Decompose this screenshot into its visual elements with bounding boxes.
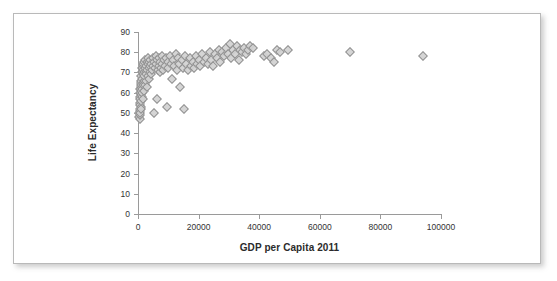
x-tick-label: 20000 [174,222,224,232]
data-point-marker [345,47,355,57]
y-tick-label: 30 [96,148,130,158]
y-tick-mark [134,52,138,53]
x-tick-label: 60000 [295,222,345,232]
data-point-marker [162,102,172,112]
y-tick-mark [134,174,138,175]
x-axis-title: GDP per Capita 2011 [138,242,441,253]
y-tick-label: 60 [96,88,130,98]
x-tick-mark [259,215,260,219]
y-tick-mark [134,194,138,195]
data-point-marker [149,108,159,118]
figure-card: Life Expectancy GDP per Capita 2011 0102… [13,13,541,264]
y-tick-mark [134,133,138,134]
x-tick-label: 40000 [234,222,284,232]
y-tick-label: 20 [96,169,130,179]
x-tick-label: 80000 [355,222,405,232]
data-point-marker [167,74,177,84]
x-tick-label: 0 [113,222,163,232]
y-tick-label: 10 [96,189,130,199]
scatter-plot-figure: Life Expectancy GDP per Capita 2011 0102… [14,14,542,265]
x-tick-mark [380,215,381,219]
data-point-marker [283,45,293,55]
y-tick-mark [134,32,138,33]
y-tick-label: 40 [96,128,130,138]
data-point-marker [418,51,428,61]
data-point-marker [269,57,279,67]
x-tick-mark [138,215,139,219]
y-tick-label: 50 [96,108,130,118]
data-point-marker [179,104,189,114]
y-tick-label: 90 [96,27,130,37]
x-tick-mark [441,215,442,219]
x-tick-mark [199,215,200,219]
x-tick-label: 100000 [416,222,466,232]
data-point-marker [175,82,185,92]
x-axis-line [138,214,442,215]
y-tick-label: 80 [96,47,130,57]
y-tick-label: 70 [96,67,130,77]
y-tick-mark [134,153,138,154]
x-tick-mark [320,215,321,219]
y-tick-label: 0 [96,209,130,219]
data-point-marker [152,94,162,104]
